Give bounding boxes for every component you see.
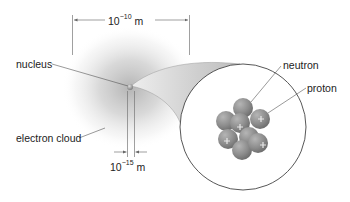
nucleus-size-unit: m [134,161,146,173]
nucleus-size-exponent: −15 [122,159,134,166]
atom-size-base: 10 [108,15,120,27]
electron-cloud-label: electron cloud [16,133,81,144]
nucleus-size-label: 10−15 m [110,160,145,172]
diagram-graphics [0,0,350,202]
neutron-label: neutron [283,60,319,71]
nucleus-size-base: 10 [110,161,122,173]
atom-size-unit: m [132,15,144,27]
nucleus-label: nucleus [16,59,52,70]
atom-size-exponent: −10 [120,13,132,20]
atom-diagram: 10−10 m nucleus electron cloud 10−15 m n… [0,0,350,202]
proton-label: proton [307,83,337,94]
atom-size-label: 10−10 m [108,14,143,26]
nucleus-dot [127,84,133,90]
